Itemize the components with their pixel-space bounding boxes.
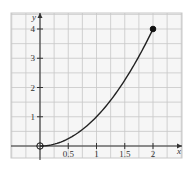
x-tick-label: 1 (94, 149, 99, 159)
x-tick-label: 0.5 (63, 149, 75, 159)
x-axis-label: x (176, 146, 181, 156)
chart: 0.511.521234 x y (0, 0, 190, 169)
y-tick-label: 2 (31, 83, 36, 93)
y-axis-label: y (31, 12, 36, 22)
x-tick-label: 1.5 (119, 149, 131, 159)
y-tick-label: 3 (31, 53, 36, 63)
y-tick-label: 1 (31, 112, 36, 122)
closed-endpoint-icon (150, 26, 156, 32)
y-tick-label: 4 (31, 24, 36, 34)
x-tick-label: 2 (151, 149, 156, 159)
